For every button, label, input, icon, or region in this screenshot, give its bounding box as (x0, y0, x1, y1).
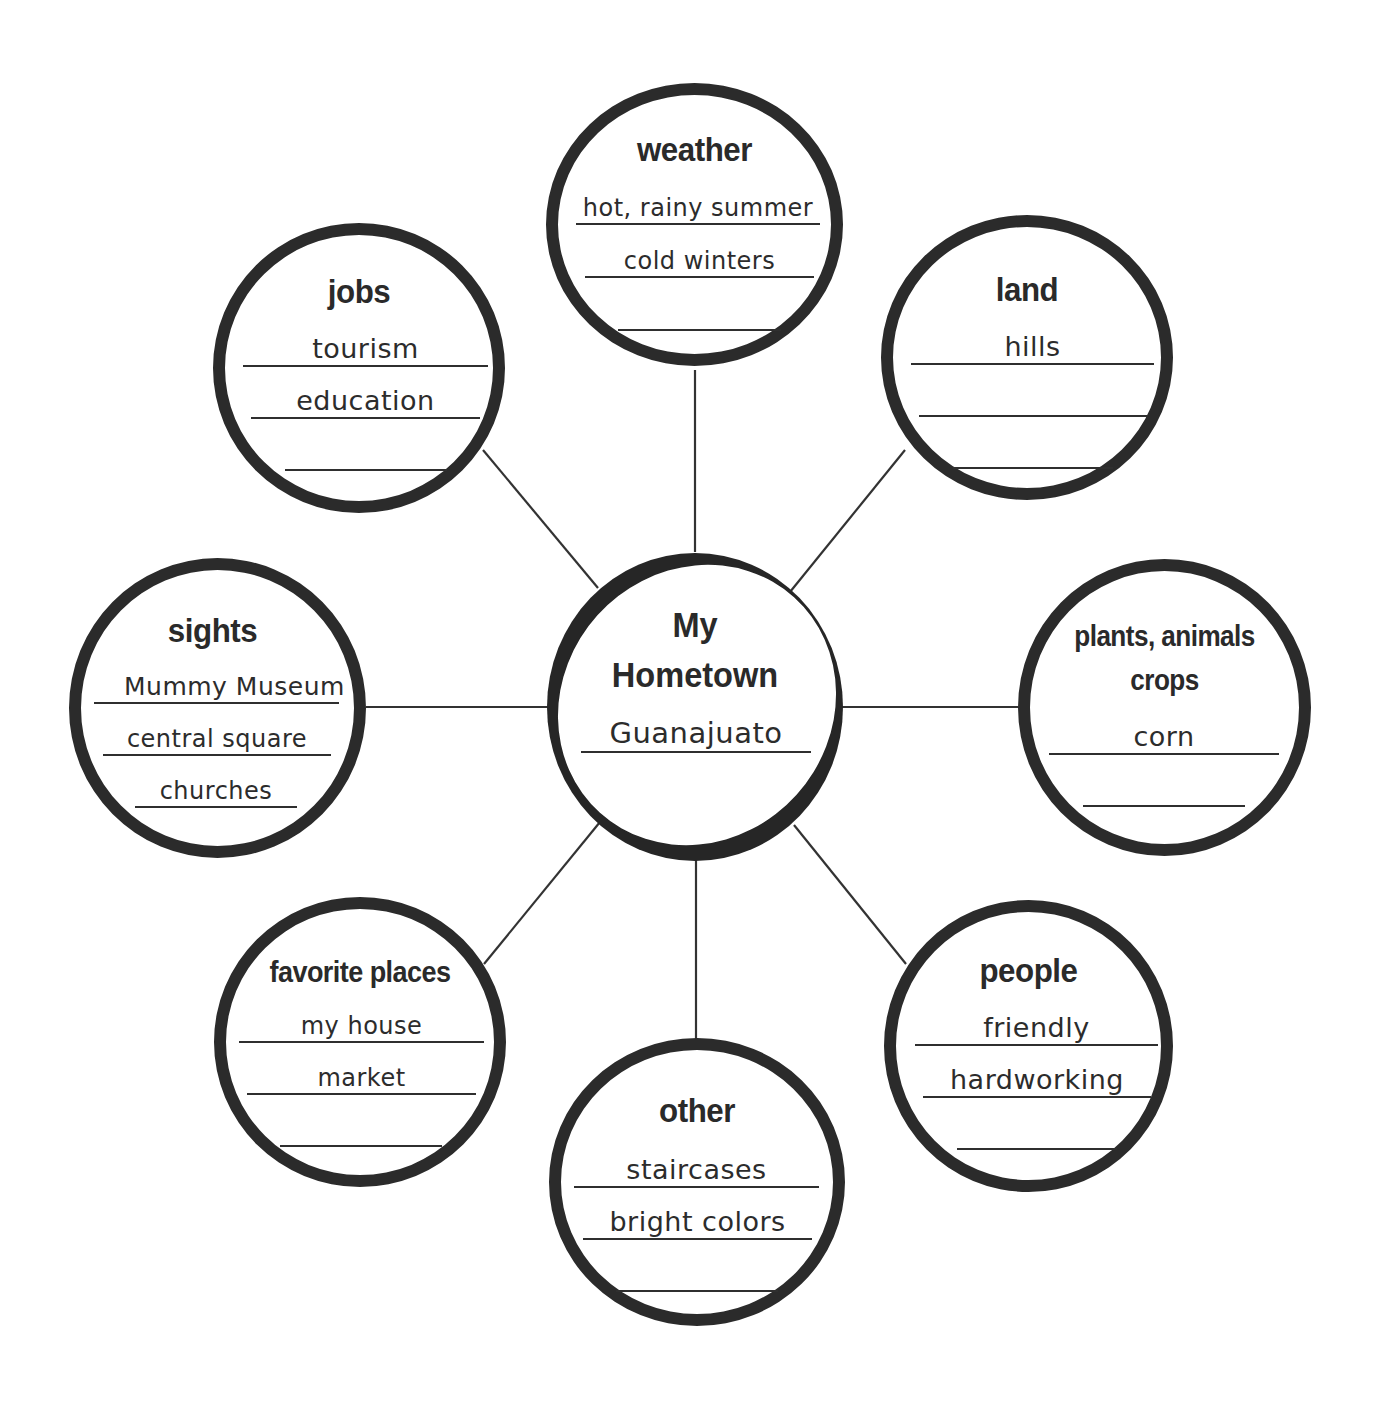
sights-line-3-text: churches (135, 777, 297, 805)
sights-line-1-text: Mummy Museum (124, 672, 339, 701)
sights-line-1[interactable]: Mummy Museum (94, 662, 339, 704)
jobs-line-1-text: tourism (243, 333, 488, 364)
center-bubble: My Hometown Guanajuato (547, 553, 843, 861)
other-line-1-text: staircases (574, 1154, 819, 1185)
sights-line-3[interactable]: churches (135, 766, 297, 808)
connector-land (790, 450, 905, 592)
favorite-line-2[interactable]: market (247, 1053, 476, 1095)
people-line-3[interactable] (957, 1108, 1117, 1150)
bubble-sights-title: sights (82, 612, 342, 649)
bubble-people: people friendly hardworking (884, 900, 1173, 1192)
plants-line-2[interactable] (1083, 765, 1245, 807)
weather-line-2-text: cold winters (585, 247, 814, 275)
weather-line-3[interactable] (618, 289, 781, 331)
bubble-other: other staircases bright colors (549, 1038, 845, 1326)
center-title-line2: Hometown (557, 649, 832, 701)
favorite-line-1-text: my house (239, 1012, 484, 1040)
land-line-1-text: hills (911, 331, 1154, 362)
weather-line-2[interactable]: cold winters (585, 236, 814, 278)
bubble-land: land hills (881, 215, 1173, 500)
people-line-2-text: hardworking (923, 1064, 1151, 1095)
bubble-people-title: people (907, 952, 1151, 989)
favorite-line-1[interactable]: my house (239, 1001, 484, 1043)
bubble-jobs: jobs tourism education (213, 223, 505, 513)
other-line-2[interactable]: bright colors (583, 1198, 812, 1240)
bubble-other-title: other (572, 1092, 822, 1129)
other-line-2-text: bright colors (583, 1206, 812, 1237)
weather-line-1[interactable]: hot, rainy summer (576, 183, 820, 225)
people-line-2[interactable]: hardworking (923, 1056, 1151, 1098)
favorite-line-3[interactable] (280, 1105, 442, 1147)
bubble-plants-title-line2: crops (1043, 665, 1285, 697)
bubble-sights: sights Mummy Museum central square churc… (69, 558, 366, 858)
bubble-plants-title-line1: plants, animals (1043, 621, 1285, 653)
center-answer-line[interactable]: Guanajuato (581, 711, 811, 753)
center-title-line1: My (557, 599, 832, 651)
center-answer-text: Guanajuato (581, 716, 811, 750)
bubble-favorite-places-title: favorite places (239, 955, 480, 988)
bubble-land-title: land (904, 271, 1151, 308)
bubble-jobs-title: jobs (236, 273, 483, 310)
sights-line-2-text: central square (103, 725, 331, 753)
plants-line-1[interactable]: corn (1049, 713, 1279, 755)
hometown-bubble-map: My Hometown Guanajuato weather hot, rain… (0, 0, 1375, 1417)
people-line-1[interactable]: friendly (915, 1004, 1158, 1046)
people-line-1-text: friendly (915, 1012, 1158, 1043)
weather-line-1-text: hot, rainy summer (576, 194, 820, 222)
favorite-line-2-text: market (247, 1064, 476, 1092)
land-line-2[interactable] (919, 375, 1147, 417)
sights-line-2[interactable]: central square (103, 714, 331, 756)
other-line-1[interactable]: staircases (574, 1146, 819, 1188)
connector-people (794, 825, 906, 964)
bubble-weather-title: weather (569, 131, 820, 168)
plants-line-1-text: corn (1049, 721, 1279, 752)
bubble-weather: weather hot, rainy summer cold winters (546, 83, 843, 366)
other-line-3[interactable] (616, 1250, 778, 1292)
connector-jobs (483, 450, 598, 588)
jobs-line-1[interactable]: tourism (243, 325, 488, 367)
bubble-favorite-places: favorite places my house market (214, 897, 506, 1187)
land-line-1[interactable]: hills (911, 323, 1154, 365)
jobs-line-2-text: education (251, 385, 480, 416)
jobs-line-2[interactable]: education (251, 377, 480, 419)
connector-favorite-places (484, 822, 600, 964)
land-line-3[interactable] (953, 427, 1113, 469)
bubble-plants-animals-crops: plants, animals crops corn (1018, 559, 1311, 856)
jobs-line-3[interactable] (285, 429, 447, 471)
